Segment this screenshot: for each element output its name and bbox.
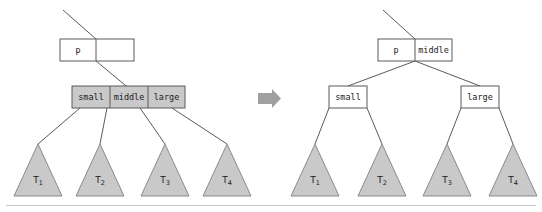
split-child-left[interactable]: small: [329, 86, 367, 108]
right-arrow-icon-shape: [258, 89, 281, 108]
before-panel: p small middle large T1: [14, 10, 251, 196]
subtree-triangle-2-after-shape: [358, 144, 406, 196]
subtree-triangle-1-before[interactable]: T1: [14, 144, 62, 196]
incoming-edge-after: [383, 10, 415, 39]
subtree-triangle-4-after-shape: [489, 144, 537, 196]
child-to-subtree-3-edge-before: [140, 108, 165, 144]
parent-node-after[interactable]: p middle: [378, 39, 452, 61]
subtree-triangle-1-after-shape: [291, 144, 339, 196]
subtree-triangle-4-before-shape: [203, 144, 251, 196]
subtree-triangle-2-before-shape: [76, 144, 124, 196]
left-child-to-subtree-2-edge-after: [367, 108, 382, 144]
parent-node-before[interactable]: p: [60, 39, 134, 61]
btree-split-figure: p small middle large T1: [0, 0, 542, 212]
subtree-triangle-4-before[interactable]: T4: [203, 144, 251, 196]
child-cell-middle-label-before: middle: [114, 92, 145, 102]
subtree-triangle-3-after-shape: [423, 144, 471, 196]
subtree-triangle-3-before-shape: [141, 144, 189, 196]
diagram-canvas: p small middle large T1: [0, 0, 542, 212]
subtree-triangle-2-after[interactable]: T2: [358, 144, 406, 196]
child-cell-small-label-before: small: [78, 92, 104, 102]
right-arrow-icon: [258, 89, 281, 108]
subtree-triangle-2-before[interactable]: T2: [76, 144, 124, 196]
after-panel: p middle small large T1: [291, 10, 537, 196]
split-child-left-label: small: [335, 92, 361, 102]
split-child-right[interactable]: large: [461, 86, 499, 108]
right-child-to-subtree-3-edge-after: [447, 108, 461, 144]
subtree-triangle-1-before-shape: [14, 144, 62, 196]
parent-node-before-box: [60, 39, 134, 61]
right-child-to-subtree-4-edge-after: [499, 108, 513, 144]
parent-cell-p-label-before: p: [75, 45, 80, 55]
overfull-child-node[interactable]: small middle large: [72, 86, 185, 108]
parent-to-left-child-edge-after: [348, 61, 415, 86]
subtree-triangle-1-after[interactable]: T1: [291, 144, 339, 196]
incoming-edge-before: [63, 10, 96, 39]
split-child-right-label: large: [467, 92, 493, 102]
child-cell-large-label-before: large: [154, 92, 180, 102]
subtree-triangle-3-after[interactable]: T3: [423, 144, 471, 196]
left-child-to-subtree-1-edge-after: [315, 108, 329, 144]
parent-cell-middle-label-after: middle: [418, 45, 449, 55]
child-to-subtree-4-edge-before: [172, 108, 227, 144]
parent-cell-p-label-after: p: [393, 45, 398, 55]
child-to-subtree-2-edge-before: [100, 108, 107, 144]
parent-to-right-child-edge-after: [415, 61, 480, 86]
subtree-triangle-4-after[interactable]: T4: [489, 144, 537, 196]
child-to-subtree-1-edge-before: [38, 108, 80, 144]
subtree-triangle-3-before[interactable]: T3: [141, 144, 189, 196]
